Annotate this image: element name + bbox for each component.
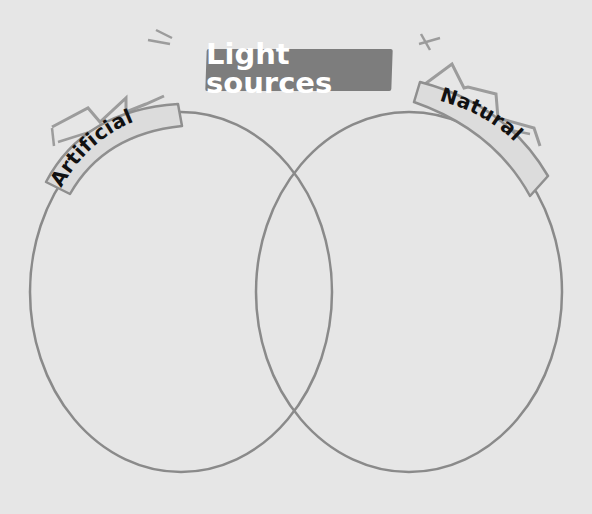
spark-lines-left-icon <box>148 30 172 44</box>
diagram-title: Light sources <box>206 40 392 98</box>
title-banner: Light sources <box>205 49 392 91</box>
artificial-label: Artificial <box>45 104 137 191</box>
venn-diagram-worksheet: Artificial Natural Light sources <box>0 0 592 514</box>
spark-lines-right-icon <box>419 34 440 50</box>
